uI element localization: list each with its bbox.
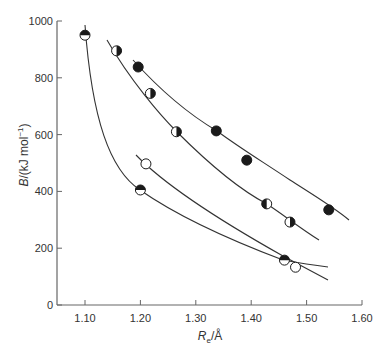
marker-filled	[324, 205, 334, 215]
marker-right-half-filled	[112, 46, 122, 56]
marker-filled	[242, 155, 252, 165]
marker-filled	[211, 126, 221, 136]
marker-top-half-filled	[279, 255, 289, 265]
marker-top-half-filled	[135, 185, 145, 195]
marker-open	[141, 159, 151, 169]
marker-open	[291, 262, 301, 272]
y-tick-label: 0	[47, 299, 53, 311]
curve-b-open	[136, 155, 328, 280]
y-tick-label: 600	[35, 129, 53, 141]
axes: 1.101.201.301.401.501.600200400600800100…	[29, 15, 373, 324]
y-tick-label: 1000	[29, 15, 53, 27]
marker-left-half-filled	[262, 199, 272, 209]
marker-right-half-filled	[285, 217, 295, 227]
marker-right-half-filled	[145, 88, 155, 98]
chart: 1.101.201.301.401.501.600200400600800100…	[0, 0, 388, 351]
x-tick-label: 1.60	[351, 312, 372, 324]
curve-d-filled	[133, 60, 349, 220]
x-tick-label: 1.50	[296, 312, 317, 324]
x-tick-label: 1.30	[185, 312, 206, 324]
marker-right-half-filled	[171, 127, 181, 137]
marker-top-half-filled	[80, 30, 90, 40]
x-tick-label: 1.20	[130, 312, 151, 324]
y-tick-label: 800	[35, 72, 53, 84]
y-axis-title: B/(kJ mol−1)	[16, 123, 31, 186]
x-axis-title: Re/Å	[198, 328, 222, 345]
marker-filled	[133, 62, 143, 72]
curves	[85, 25, 349, 280]
x-tick-label: 1.40	[240, 312, 261, 324]
y-tick-label: 200	[35, 242, 53, 254]
curve-a-steep	[85, 25, 328, 267]
x-tick-label: 1.10	[74, 312, 95, 324]
y-tick-label: 400	[35, 185, 53, 197]
markers	[80, 30, 334, 272]
